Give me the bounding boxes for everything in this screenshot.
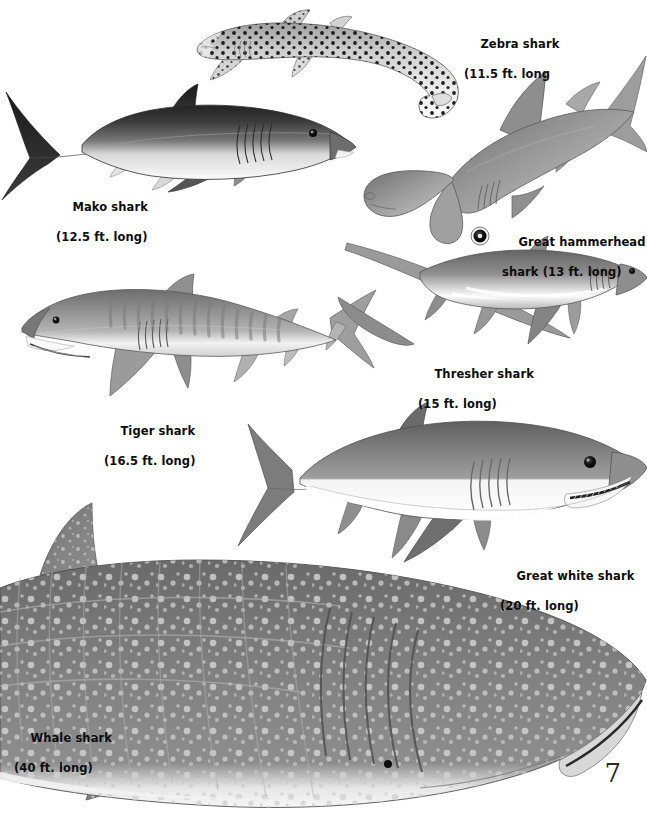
zebra-shark-illustration xyxy=(197,10,458,118)
greatwhite-shark-eye xyxy=(584,456,596,468)
mako-body xyxy=(82,105,352,179)
label-thresher-shark: Thresher shark (15 ft. long) xyxy=(418,352,534,442)
label-tiger-size: (16.5 ft. long) xyxy=(104,454,196,469)
mako-shark-illustration xyxy=(2,84,356,200)
label-mako-size: (12.5 ft. long) xyxy=(56,230,148,245)
label-whale-name: Whale shark xyxy=(30,731,112,745)
label-tiger-name: Tiger shark xyxy=(120,424,195,438)
shark-plate-artwork xyxy=(0,0,647,814)
label-great-white-shark: Great white shark (20 ft. long) xyxy=(500,554,634,644)
label-thresher-size: (15 ft. long) xyxy=(418,397,534,412)
label-great-white-name: Great white shark xyxy=(516,569,634,583)
mako-caudal-fin xyxy=(2,92,60,200)
whale-shark-eye xyxy=(384,760,392,768)
mako-shark-eye xyxy=(309,129,317,137)
label-zebra-shark: Zebra shark (11.5 ft. long xyxy=(464,22,559,112)
label-hammerhead-size: shark (13 ft. long) xyxy=(502,265,646,280)
label-hammerhead-shark: Great hammerhead shark (13 ft. long) xyxy=(502,220,646,310)
label-mako-name: Mako shark xyxy=(72,200,148,214)
label-zebra-name: Zebra shark xyxy=(480,37,559,51)
page-number: 7 xyxy=(604,758,621,788)
label-whale-size: (40 ft. long) xyxy=(14,761,112,776)
label-zebra-size: (11.5 ft. long xyxy=(464,67,559,82)
illustration-page: Zebra shark (11.5 ft. long Mako shark (1… xyxy=(0,0,647,814)
label-hammerhead-name: Great hammerhead xyxy=(518,235,645,249)
hammerhead-body xyxy=(449,109,634,213)
label-great-white-size: (20 ft. long) xyxy=(500,599,634,614)
greatwhite-caudal-fin xyxy=(238,424,294,546)
label-whale-shark: Whale shark (40 ft. long) xyxy=(14,716,112,806)
tiger-shark-illustration xyxy=(22,274,376,396)
label-tiger-shark: Tiger shark (16.5 ft. long) xyxy=(104,409,196,499)
label-mako-shark: Mako shark (12.5 ft. long) xyxy=(56,185,148,275)
label-thresher-name: Thresher shark xyxy=(434,367,534,381)
tiger-shark-eye xyxy=(53,317,60,324)
zebra-shark-eye xyxy=(211,39,215,43)
